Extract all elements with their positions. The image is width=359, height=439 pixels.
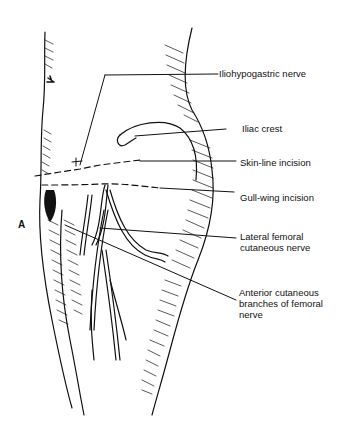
label-anterior-cutaneous-branches: Anterior cutaneous branches of femoral n… — [239, 287, 323, 320]
label-gull-wing-incision: Gull-wing incision — [240, 192, 314, 203]
label-lateral-femoral-cutaneous-nerve: Lateral femoral cutaneous nerve — [240, 231, 310, 253]
label-iliohypogastric-nerve: Iliohypogastric nerve — [219, 68, 306, 79]
anatomical-illustration — [0, 0, 359, 439]
panel-label: A — [18, 219, 25, 230]
label-skin-line-incision: Skin-line incision — [240, 157, 311, 168]
label-iliac-crest: Iliac crest — [242, 123, 282, 134]
